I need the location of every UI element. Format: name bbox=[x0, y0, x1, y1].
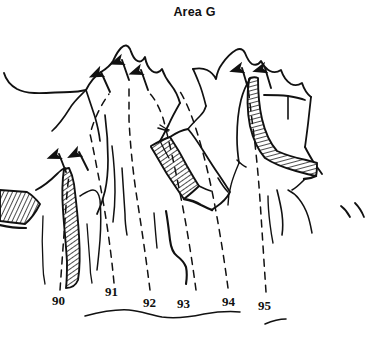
sketch-drawing bbox=[0, 0, 389, 338]
tick-curves-right bbox=[341, 203, 364, 217]
site-label-93: 93 bbox=[177, 296, 190, 312]
arrow-icon bbox=[79, 152, 88, 170]
arrow-icon bbox=[101, 72, 110, 92]
dashed-line-92 bbox=[129, 84, 150, 290]
arrow-icon bbox=[141, 70, 148, 90]
dashed-line-91-b bbox=[89, 157, 115, 283]
site-label-94: 94 bbox=[222, 294, 235, 310]
site-label-90: 90 bbox=[52, 293, 65, 309]
figure-area-g: Area G bbox=[0, 0, 389, 338]
arrow-icon bbox=[242, 68, 248, 88]
site-label-95: 95 bbox=[258, 298, 271, 314]
dashed-line-91 bbox=[90, 94, 114, 283]
dashed-sight-lines bbox=[60, 84, 266, 292]
site-label-92: 92 bbox=[143, 295, 156, 311]
ledge-right bbox=[264, 95, 305, 119]
outcrop-outline-far-left bbox=[4, 73, 100, 141]
arrow-icon bbox=[122, 60, 129, 80]
gully-lines-center bbox=[154, 211, 187, 284]
site-label-91: 91 bbox=[105, 284, 118, 300]
rock-band-far-left bbox=[0, 190, 40, 228]
rock-band-left bbox=[62, 168, 79, 288]
